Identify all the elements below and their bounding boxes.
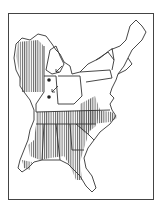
dot-marker-icon xyxy=(47,95,51,99)
range-map xyxy=(0,0,163,207)
occurrence-markers xyxy=(47,66,62,99)
dot-marker-icon xyxy=(47,78,51,82)
